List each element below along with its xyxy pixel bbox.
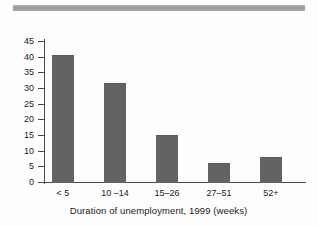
y-tick-label-wrap: 0 (0, 178, 34, 187)
bar (156, 135, 178, 183)
y-tick-mark (38, 182, 44, 183)
bar (260, 157, 282, 183)
y-tick-label: 10 (4, 147, 34, 156)
x-tick-label: < 5 (33, 188, 93, 198)
y-tick-label-wrap: 10 (0, 147, 34, 156)
y-tick-mark (38, 88, 44, 89)
y-tick-label: 25 (4, 100, 34, 109)
x-tick-label: 52+ (241, 188, 301, 198)
chart-page: 051015202530354045 < 510 –1415–2627–5152… (0, 0, 317, 226)
y-tick-mark (38, 119, 44, 120)
y-tick-label: 35 (4, 68, 34, 77)
y-tick-label: 20 (4, 115, 34, 124)
x-axis-title: Duration of unemployment, 1999 (weeks) (0, 205, 317, 216)
bar (208, 163, 230, 183)
y-tick-mark (38, 41, 44, 42)
bar (52, 55, 74, 183)
y-tick-label: 5 (4, 162, 34, 171)
y-tick-mark (38, 166, 44, 167)
y-tick-label-wrap: 5 (0, 162, 34, 171)
y-tick-label-wrap: 30 (0, 84, 34, 93)
x-tick-label: 10 –14 (85, 188, 145, 198)
y-tick-mark (38, 151, 44, 152)
y-tick-label-wrap: 25 (0, 100, 34, 109)
y-tick-mark (38, 135, 44, 136)
y-tick-label: 0 (4, 178, 34, 187)
x-tick-label: 15–26 (137, 188, 197, 198)
y-tick-mark (38, 72, 44, 73)
bar (104, 83, 126, 183)
y-tick-label-wrap: 20 (0, 115, 34, 124)
y-tick-label-wrap: 15 (0, 131, 34, 140)
y-tick-label: 45 (4, 37, 34, 46)
y-tick-mark (38, 57, 44, 58)
y-tick-label-wrap: 35 (0, 68, 34, 77)
y-tick-label: 30 (4, 84, 34, 93)
y-tick-mark (38, 104, 44, 105)
x-tick-label: 27–51 (189, 188, 249, 198)
y-tick-label: 15 (4, 131, 34, 140)
top-divider-rule (13, 5, 305, 11)
y-axis-line (44, 39, 45, 184)
y-tick-label-wrap: 45 (0, 37, 34, 46)
y-tick-label: 40 (4, 53, 34, 62)
y-tick-label-wrap: 40 (0, 53, 34, 62)
